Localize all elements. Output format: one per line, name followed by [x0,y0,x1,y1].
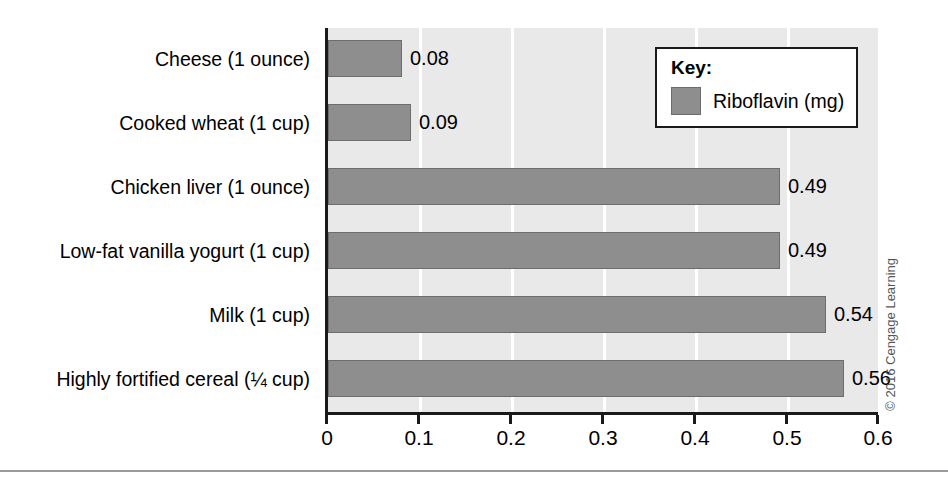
x-axis-tick-label: 0.5 [772,427,801,448]
x-axis-tick-label: 0.6 [863,427,892,448]
x-axis-tick [325,415,328,424]
riboflavin-bar-chart-figure: Cheese (1 ounce) Cooked wheat (1 cup) Ch… [0,0,948,484]
x-axis-tick [876,415,879,424]
bar-value-label: 0.08 [410,48,449,68]
gridline [419,28,422,412]
legend-swatch-icon [671,87,701,115]
x-axis-tick-label: 0 [321,427,333,448]
category-label: Cooked wheat (1 cup) [0,114,310,134]
x-axis-tick-label: 0.3 [588,427,617,448]
category-label: Milk (1 cup) [0,306,310,326]
bar-cooked-wheat [328,104,411,141]
x-axis-tick [785,415,788,424]
page-divider-rule [0,470,948,472]
bar-cheese [328,40,402,77]
copyright-credit: © 2016 Cengage Learning [884,258,897,411]
chart-legend: Key: Riboflavin (mg) [655,47,858,128]
bar-chicken-liver [328,168,780,205]
bar-value-label: 0.49 [788,176,827,196]
category-label: Low-fat vanilla yogurt (1 cup) [0,242,310,262]
x-axis-tick-label: 0.2 [496,427,525,448]
gridline [603,28,606,412]
category-label: Highly fortified cereal (¼ cup) [0,370,310,390]
legend-entry-label: Riboflavin (mg) [713,92,844,112]
category-label: Cheese (1 ounce) [0,50,310,70]
x-axis-tick-label: 0.4 [680,427,709,448]
x-axis-tick [693,415,696,424]
bar-value-label: 0.49 [788,240,827,260]
x-axis-tick-label: 0.1 [404,427,433,448]
bar-value-label: 0.54 [834,304,873,324]
bar-highly-fortified-cereal [328,360,844,397]
legend-title: Key: [671,58,712,77]
category-label: Chicken liver (1 ounce) [0,178,310,198]
x-axis-tick [601,415,604,424]
bar-milk [328,296,826,333]
bar-value-label: 0.09 [419,112,458,132]
gridline [511,28,514,412]
x-axis-tick [509,415,512,424]
bar-low-fat-vanilla-yogurt [328,232,780,269]
category-axis-labels: Cheese (1 ounce) Cooked wheat (1 cup) Ch… [0,28,318,415]
x-axis-tick [417,415,420,424]
